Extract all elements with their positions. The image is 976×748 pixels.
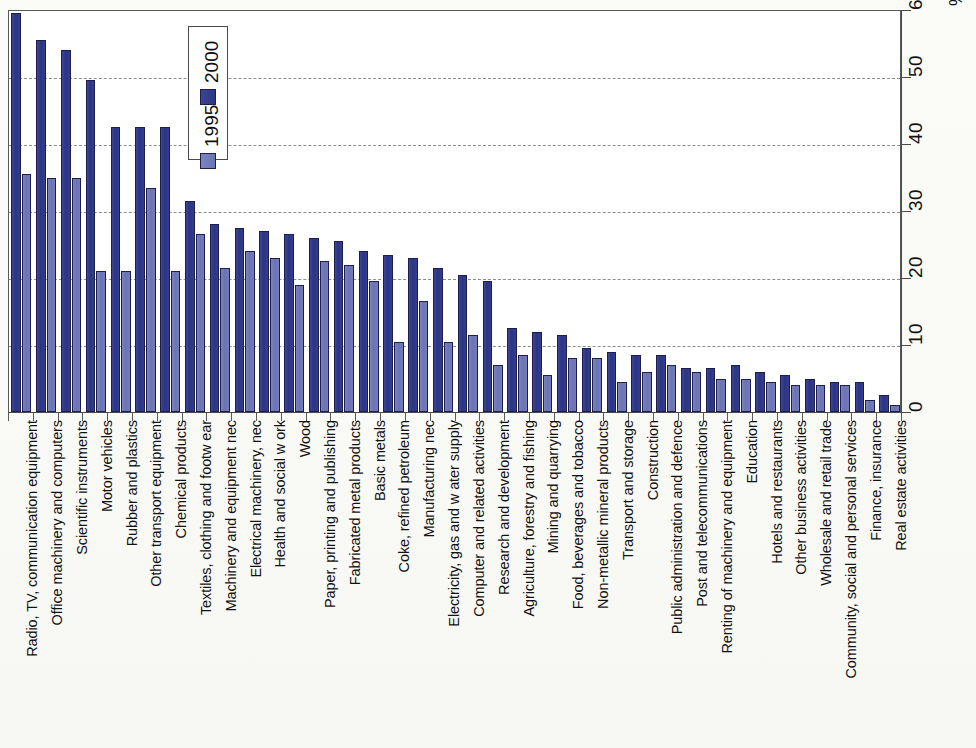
category-label: Radio, TV, communication equipment — [25, 420, 40, 657]
bar-2000 — [61, 50, 71, 412]
bar-2000 — [284, 234, 294, 412]
bar-2000 — [135, 127, 145, 412]
y-tick-label-60: 60 — [905, 0, 927, 10]
bar-1995 — [518, 355, 528, 412]
category-label: Electricity, gas and w ater supply — [447, 420, 462, 627]
x-axis — [8, 412, 901, 413]
y-tick-10 — [902, 345, 911, 346]
legend-label-2000: 2000 — [201, 41, 223, 83]
y-tick-0 — [902, 412, 911, 413]
y-tick-label-40: 40 — [905, 122, 927, 144]
bar-2000 — [483, 281, 493, 412]
bar-1995 — [47, 178, 57, 413]
category-label: Machinery and equipment nec — [224, 420, 239, 612]
category-label: Textiles, clothing and footw ear — [199, 420, 214, 615]
bar-1995 — [865, 400, 875, 412]
bar-1995 — [468, 335, 478, 412]
y-axis-unit-label: % — [946, 0, 967, 6]
bar-1995 — [96, 271, 106, 412]
bar-2000 — [607, 352, 617, 412]
bar-1995 — [245, 251, 255, 412]
bar-1995 — [642, 372, 652, 412]
category-label: Renting of machinery and equipment — [720, 420, 735, 654]
bar-2000 — [755, 372, 765, 412]
bars-layer — [8, 10, 901, 412]
bar-1995 — [270, 258, 280, 412]
category-label: Manufacturing nec — [422, 420, 437, 538]
category-label: Basic metals — [373, 420, 388, 501]
category-label: Hotels and restaurants — [770, 420, 785, 564]
bar-1995 — [890, 405, 900, 412]
category-label: Post and telecommunications — [695, 420, 710, 607]
bar-1995 — [568, 358, 578, 412]
bar-2000 — [532, 332, 542, 412]
category-label: Wood — [298, 420, 313, 457]
bar-1995 — [617, 382, 627, 412]
y-tick-50 — [902, 77, 911, 78]
category-label: Chemical products — [174, 420, 189, 538]
category-label: Mining and quarrying — [546, 420, 561, 553]
bar-1995 — [394, 342, 404, 412]
category-label: Rubber and plastics — [125, 420, 140, 546]
bar-2000 — [11, 13, 21, 412]
bar-2000 — [408, 258, 418, 412]
bar-2000 — [706, 368, 716, 412]
category-label: Finance, insurance — [869, 420, 884, 541]
bar-2000 — [210, 224, 220, 412]
bar-2000 — [458, 275, 468, 412]
bar-2000 — [433, 268, 443, 412]
bar-1995 — [493, 365, 503, 412]
bar-1995 — [121, 271, 131, 412]
bar-2000 — [309, 238, 319, 412]
bar-1995 — [840, 385, 850, 412]
bar-1995 — [171, 271, 181, 412]
bar-2000 — [36, 40, 46, 412]
bar-2000 — [383, 255, 393, 412]
bar-2000 — [160, 127, 170, 412]
bar-2000 — [855, 382, 865, 412]
bar-1995 — [344, 265, 354, 412]
category-label: Community, social and personal services — [844, 420, 859, 679]
category-label: Construction — [646, 420, 661, 500]
bar-1995 — [196, 234, 206, 412]
legend-label-1995: 1995 — [201, 105, 223, 147]
category-label: Scientific instruments — [75, 420, 90, 555]
category-labels: Radio, TV, communication equipmentOffice… — [8, 420, 901, 746]
bar-1995 — [295, 285, 305, 412]
category-label: Wholesale and retail trade — [819, 420, 834, 586]
category-label: Paper, printing and publishing — [323, 420, 338, 608]
bar-2000 — [631, 355, 641, 412]
bar-1995 — [220, 268, 230, 412]
bar-2000 — [259, 231, 269, 412]
bar-1995 — [716, 379, 726, 413]
y-tick-label-20: 20 — [905, 256, 927, 278]
bar-2000 — [681, 368, 691, 412]
y-tick-20 — [902, 278, 911, 279]
bar-2000 — [582, 348, 592, 412]
category-label: Other business activities — [794, 420, 809, 575]
bar-2000 — [185, 201, 195, 412]
bar-2000 — [830, 382, 840, 412]
category-label: Fabricated metal products — [348, 420, 363, 585]
bar-2000 — [111, 127, 121, 412]
chart-legend: 20001995 — [188, 26, 228, 160]
bar-2000 — [780, 375, 790, 412]
category-label: Computer and related activities — [472, 420, 487, 617]
bar-2000 — [235, 228, 245, 412]
category-label: Real estate activities — [894, 420, 909, 551]
category-label: Research and development — [497, 420, 512, 595]
bar-1995 — [592, 358, 602, 412]
bar-1995 — [543, 375, 553, 412]
y-tick-60 — [902, 10, 911, 11]
bar-1995 — [692, 372, 702, 412]
y-tick-label-0: 0 — [905, 401, 927, 412]
y-tick-40 — [902, 144, 911, 145]
bar-1995 — [419, 301, 429, 412]
bar-2000 — [359, 251, 369, 412]
bar-1995 — [791, 385, 801, 412]
y-axis: 0102030405060 — [901, 10, 902, 413]
category-label: Non-metallic mineral products — [596, 420, 611, 609]
bar-2000 — [557, 335, 567, 412]
legend-swatch-1995 — [200, 153, 216, 169]
bar-1995 — [816, 385, 826, 412]
